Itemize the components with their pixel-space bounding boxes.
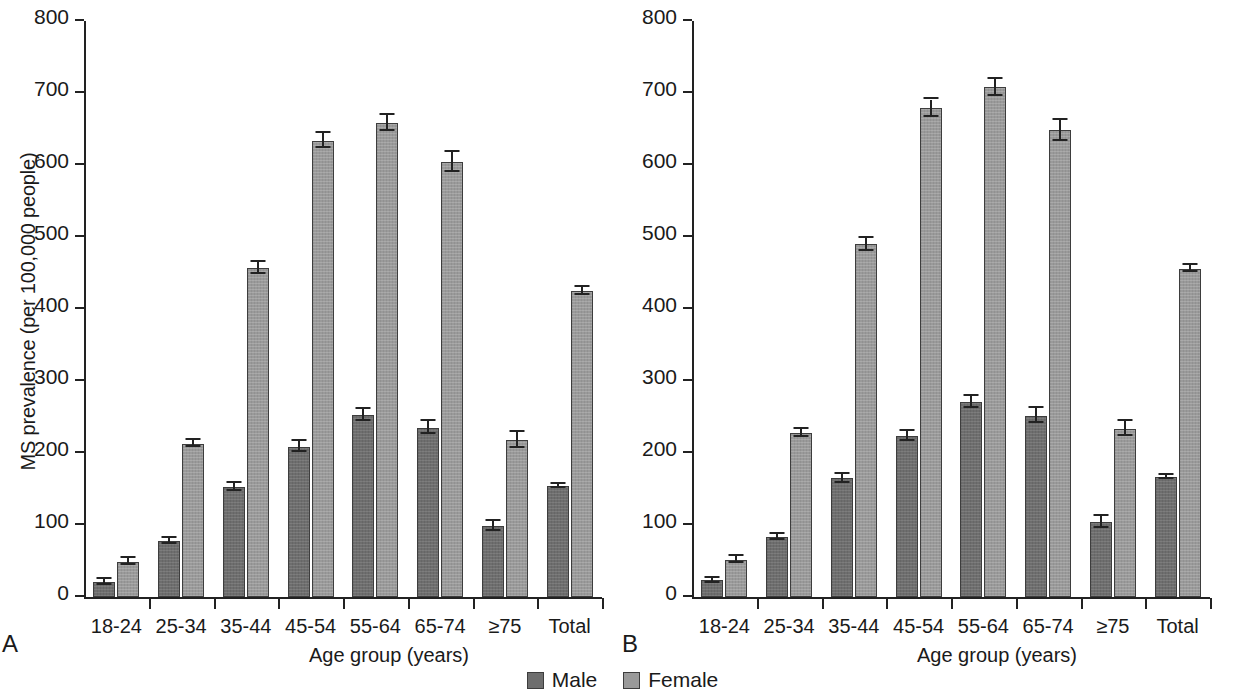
legend-swatch-female-icon bbox=[623, 672, 640, 689]
bar-a-3544-male bbox=[223, 487, 245, 597]
error-bar-cap-lower-a-7-0 bbox=[550, 486, 565, 488]
error-bar-cap-upper-b-2-1 bbox=[858, 236, 873, 238]
bar-b-6574-female bbox=[1049, 130, 1071, 597]
x-axis-tick-label-b-4: 55-64 bbox=[958, 615, 1009, 638]
y-axis-tick-400-a: 400 bbox=[75, 307, 84, 309]
x-axis-tick-a-5 bbox=[473, 598, 475, 609]
error-bar-cap-upper-b-6-1 bbox=[1117, 419, 1132, 421]
bar-a-6574-female bbox=[441, 162, 463, 597]
x-axis-tick-label-b-3: 45-54 bbox=[893, 615, 944, 638]
error-bar-cap-upper-b-1-0 bbox=[770, 532, 785, 534]
panel-letter-a: A bbox=[2, 630, 18, 658]
x-axis-tick-label-a-4: 55-64 bbox=[350, 615, 401, 638]
error-bar-cap-upper-a-5-0 bbox=[421, 419, 436, 421]
error-bar-cap-upper-a-2-1 bbox=[250, 260, 265, 262]
plot-area-a: 010020030040050060070080018-2425-3435-44… bbox=[84, 21, 602, 597]
y-axis-tick-label-800-a: 800 bbox=[34, 5, 69, 29]
y-axis-tick-0-a: 0 bbox=[75, 595, 84, 597]
y-axis-tick-400-b: 400 bbox=[683, 307, 692, 309]
error-bar-cap-lower-a-4-0 bbox=[356, 419, 371, 421]
error-bar-cap-lower-b-3-1 bbox=[923, 115, 938, 117]
error-bar-cap-upper-b-0-0 bbox=[705, 576, 720, 578]
error-bar-cap-lower-a-5-1 bbox=[445, 170, 460, 172]
error-bar-cap-lower-b-2-0 bbox=[834, 481, 849, 483]
y-axis-tick-800-a: 800 bbox=[75, 19, 84, 21]
error-bar-cap-upper-b-3-1 bbox=[923, 97, 938, 99]
error-bar-cap-lower-a-7-1 bbox=[574, 293, 589, 295]
error-bar-stem-b-5-1 bbox=[1059, 120, 1061, 140]
bar-a-Total-female bbox=[571, 291, 593, 597]
figure-ms-prevalence-by-age-and-sex: MS prevalence (per 100,000 people) 01002… bbox=[0, 0, 1245, 697]
panel-letter-b: B bbox=[622, 630, 638, 658]
chart-legend: Male Female bbox=[0, 668, 1245, 692]
x-axis-label-b: Age group (years) bbox=[620, 644, 1245, 667]
error-bar-cap-upper-a-7-0 bbox=[550, 482, 565, 484]
panel-a: MS prevalence (per 100,000 people) 01002… bbox=[0, 0, 622, 660]
bar-a-6574-male bbox=[417, 428, 439, 597]
y-axis-tick-label-500-b: 500 bbox=[642, 221, 677, 245]
error-bar-cap-lower-a-3-0 bbox=[291, 450, 306, 452]
bar-b-75-female bbox=[1114, 429, 1136, 597]
error-bar-cap-upper-b-3-0 bbox=[899, 429, 914, 431]
x-axis-tick-label-a-1: 25-34 bbox=[156, 615, 207, 638]
y-axis-tick-label-0-b: 0 bbox=[665, 581, 677, 605]
bar-a-3544-female bbox=[247, 268, 269, 597]
error-bar-cap-lower-a-0-0 bbox=[97, 583, 112, 585]
y-axis-tick-500-b: 500 bbox=[683, 235, 692, 237]
bar-b-4554-male bbox=[896, 436, 918, 597]
y-axis-tick-label-100-a: 100 bbox=[34, 509, 69, 533]
error-bar-cap-lower-b-7-0 bbox=[1158, 477, 1173, 479]
error-bar-cap-lower-b-3-0 bbox=[899, 439, 914, 441]
error-bar-cap-lower-b-6-1 bbox=[1117, 434, 1132, 436]
error-bar-cap-upper-a-1-1 bbox=[186, 438, 201, 440]
y-axis-tick-label-600-b: 600 bbox=[642, 149, 677, 173]
error-bar-cap-lower-b-1-1 bbox=[794, 435, 809, 437]
x-axis-tick-b-6 bbox=[1145, 598, 1147, 609]
error-bar-cap-lower-b-4-1 bbox=[988, 94, 1003, 96]
bar-b-75-male bbox=[1090, 522, 1112, 597]
y-axis-tick-label-400-a: 400 bbox=[34, 293, 69, 317]
legend-label-female: Female bbox=[648, 668, 718, 692]
error-bar-cap-upper-a-3-0 bbox=[291, 439, 306, 441]
x-axis-tick-a-0 bbox=[149, 598, 151, 609]
x-axis-tick-a-7 bbox=[602, 598, 604, 609]
x-axis-tick-label-a-6: ≥75 bbox=[488, 615, 521, 638]
y-axis-tick-100-a: 100 bbox=[75, 523, 84, 525]
error-bar-cap-lower-a-6-0 bbox=[485, 529, 500, 531]
x-axis-tick-label-a-3: 45-54 bbox=[285, 615, 336, 638]
x-axis-tick-label-b-7: Total bbox=[1157, 615, 1199, 638]
y-axis-tick-label-800-b: 800 bbox=[642, 5, 677, 29]
bar-a-1824-female bbox=[117, 562, 139, 597]
error-bar-cap-upper-a-6-1 bbox=[509, 430, 524, 432]
error-bar-cap-lower-a-5-0 bbox=[421, 432, 436, 434]
y-axis-tick-label-700-b: 700 bbox=[642, 77, 677, 101]
bar-a-4554-male bbox=[288, 447, 310, 597]
bar-a-5564-male bbox=[352, 415, 374, 597]
error-bar-cap-lower-a-6-1 bbox=[509, 446, 524, 448]
error-bar-cap-lower-a-3-1 bbox=[315, 146, 330, 148]
error-bar-cap-upper-b-4-1 bbox=[988, 77, 1003, 79]
x-axis-tick-label-b-5: 65-74 bbox=[1023, 615, 1074, 638]
error-bar-cap-upper-b-6-0 bbox=[1093, 514, 1108, 516]
y-axis-tick-label-300-b: 300 bbox=[642, 365, 677, 389]
error-bar-cap-upper-b-1-1 bbox=[794, 427, 809, 429]
y-axis-line-b bbox=[692, 21, 694, 598]
error-bar-cap-upper-a-0-0 bbox=[97, 577, 112, 579]
y-axis-tick-label-700-a: 700 bbox=[34, 77, 69, 101]
error-bar-cap-lower-b-5-0 bbox=[1029, 421, 1044, 423]
x-axis-tick-label-a-2: 35-44 bbox=[220, 615, 271, 638]
error-bar-cap-upper-a-3-1 bbox=[315, 131, 330, 133]
x-axis-tick-b-2 bbox=[886, 598, 888, 609]
error-bar-cap-upper-a-4-1 bbox=[380, 113, 395, 115]
error-bar-cap-upper-b-2-0 bbox=[834, 472, 849, 474]
error-bar-cap-lower-b-6-0 bbox=[1093, 526, 1108, 528]
bar-b-2534-female bbox=[790, 433, 812, 597]
x-axis-tick-a-2 bbox=[278, 598, 280, 609]
error-bar-cap-lower-a-2-0 bbox=[226, 489, 241, 491]
error-bar-cap-lower-b-5-1 bbox=[1053, 139, 1068, 141]
legend-swatch-male-icon bbox=[527, 672, 544, 689]
bar-b-Total-male bbox=[1155, 477, 1177, 597]
x-axis-tick-b-4 bbox=[1016, 598, 1018, 609]
y-axis-tick-label-100-b: 100 bbox=[642, 509, 677, 533]
x-axis-tick-b-5 bbox=[1081, 598, 1083, 609]
